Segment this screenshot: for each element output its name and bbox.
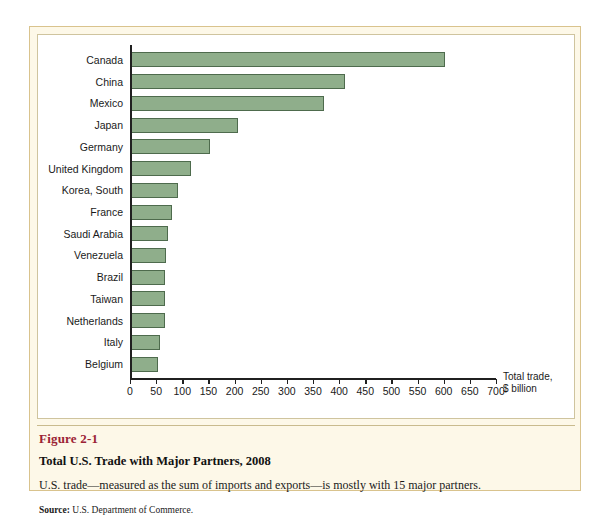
bar [131,161,191,176]
category-label: Italy [104,335,123,349]
x-axis-unit-line2: $ billion [503,383,552,395]
category-label: Brazil [97,270,123,284]
x-axis-tick [444,379,445,384]
category-label: China [96,75,123,89]
caption-divider [37,425,575,426]
figure-source: Source: U.S. Department of Commerce. [39,505,569,515]
x-axis-tick [391,379,392,384]
category-label: Canada [86,53,123,67]
category-label: Germany [80,140,123,154]
category-label: Saudi Arabia [63,227,123,241]
x-axis-tick [496,379,497,384]
figure-number: Figure 2-1 [39,431,569,447]
x-axis-tick [470,379,471,384]
chart-plot-panel: CanadaChinaMexicoJapanGermanyUnited King… [37,34,575,419]
bar [131,313,165,328]
figure-frame: CanadaChinaMexicoJapanGermanyUnited King… [29,26,581,491]
figure-caption: Figure 2-1 Total U.S. Trade with Major P… [39,431,569,515]
category-label: Taiwan [90,292,123,306]
bar [131,357,158,372]
bar [131,96,324,111]
x-axis-tick [208,379,209,384]
x-axis-unit-label: Total trade, $ billion [503,371,552,394]
x-axis-unit-line1: Total trade, [503,371,552,383]
x-axis-tick [313,379,314,384]
figure-title: Total U.S. Trade with Major Partners, 20… [39,454,569,469]
x-axis-tick [418,379,419,384]
bar [131,74,345,89]
x-axis-tick [182,379,183,384]
source-label: Source: [39,505,70,515]
category-label: United Kingdom [48,162,123,176]
bar [131,118,238,133]
category-label: Venezuela [74,248,123,262]
category-label: Korea, South [62,183,123,197]
bar [131,270,165,285]
x-axis-tick [235,379,236,384]
bar [131,183,178,198]
category-label: Netherlands [66,314,123,328]
bars-container [131,49,501,375]
x-axis-tick [261,379,262,384]
x-axis-tick [339,379,340,384]
bar [131,248,166,263]
category-label: Belgium [85,357,123,371]
bar [131,139,210,154]
figure-description: U.S. trade—measured as the sum of import… [39,478,569,493]
bar [131,205,172,220]
category-label: Mexico [90,96,123,110]
category-label: France [90,205,123,219]
x-axis-tick [130,379,131,384]
source-text: U.S. Department of Commerce. [72,505,193,515]
bar [131,291,165,306]
x-axis-tick [156,379,157,384]
bar [131,226,168,241]
x-axis-tick [287,379,288,384]
category-label: Japan [94,118,123,132]
bar [131,335,160,350]
y-axis-line [130,45,132,378]
x-axis-tick [365,379,366,384]
category-axis-labels: CanadaChinaMexicoJapanGermanyUnited King… [38,49,127,375]
bar [131,52,445,67]
